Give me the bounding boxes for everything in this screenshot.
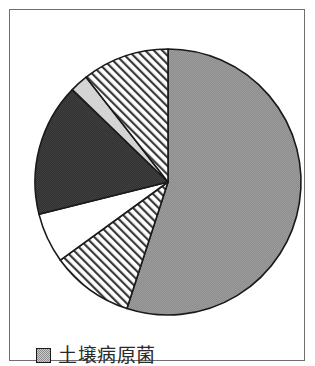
chart-frame-border: 土壌病原菌 [9,9,305,361]
pie-chart-svg [20,20,314,330]
legend-swatch-gray [36,348,51,363]
legend-label-soil-pathogen: 土壌病原菌 [58,345,156,365]
pie-slice-group [35,49,301,315]
chart-legend: 土壌病原菌 [36,345,156,365]
pie-chart-plot-area [20,20,314,330]
